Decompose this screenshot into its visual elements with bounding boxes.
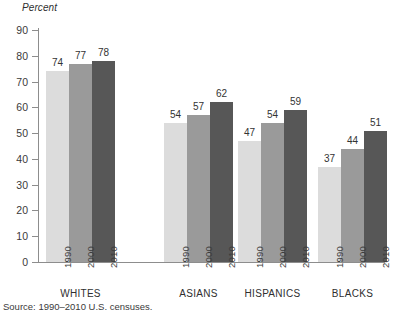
bar — [238, 141, 261, 262]
x-axis-year-label: 2000 — [277, 246, 288, 268]
x-axis-year-label: 1990 — [180, 246, 191, 268]
bar — [341, 149, 364, 262]
x-axis-year-label: 1990 — [334, 246, 345, 268]
bar-value-label: 47 — [238, 128, 261, 138]
x-axis-group-label: WHITES — [16, 288, 145, 299]
bar-value-label: 57 — [187, 102, 210, 112]
bar-value-label: 54 — [261, 110, 284, 120]
bar-value-label: 77 — [69, 51, 92, 61]
x-axis-year-label: 2010 — [108, 246, 119, 268]
source-note: Source: 1990–2010 U.S. censuses. — [3, 301, 152, 312]
x-axis-year-label: 2010 — [226, 246, 237, 268]
x-axis-year-label: 2010 — [380, 246, 391, 268]
bar — [187, 115, 210, 262]
bar — [210, 102, 233, 262]
x-axis-year-label: 1990 — [62, 246, 73, 268]
y-axis-tick-label: 40 — [2, 154, 28, 165]
bar-value-label: 54 — [164, 110, 187, 120]
bar-value-label: 62 — [210, 89, 233, 99]
bar-value-label: 51 — [364, 118, 387, 128]
bar — [261, 123, 284, 262]
bar — [92, 61, 115, 262]
bar — [69, 64, 92, 262]
bar-value-label: 59 — [284, 97, 307, 107]
y-axis-tick — [32, 262, 38, 263]
y-axis-tick-label: 70 — [2, 77, 28, 88]
x-axis-year-label: 2000 — [357, 246, 368, 268]
bar-value-label: 78 — [92, 48, 115, 58]
y-axis-tick-label: 50 — [2, 128, 28, 139]
x-axis-group-label: BLACKS — [288, 288, 394, 299]
y-axis-tick-label: 20 — [2, 205, 28, 216]
bar-value-label: 44 — [341, 136, 364, 146]
bar-value-label: 37 — [318, 154, 341, 164]
plot-area: 747778545762475459374451 — [38, 30, 385, 262]
y-axis-tick-label: 10 — [2, 231, 28, 242]
y-axis-tick-label: 80 — [2, 51, 28, 62]
y-axis-title: Percent — [22, 2, 57, 13]
bar — [46, 71, 69, 262]
bar — [284, 110, 307, 262]
x-axis-year-label: 2010 — [300, 246, 311, 268]
bar — [364, 131, 387, 262]
x-axis-year-label: 1990 — [254, 246, 265, 268]
y-axis-tick-label: 90 — [2, 25, 28, 36]
bar-value-label: 74 — [46, 58, 69, 68]
y-axis-tick-label: 60 — [2, 102, 28, 113]
y-axis-tick-label: 30 — [2, 180, 28, 191]
bar — [164, 123, 187, 262]
y-axis-tick-label: 0 — [2, 257, 28, 268]
x-axis-year-label: 2000 — [203, 246, 214, 268]
x-axis-year-label: 2000 — [85, 246, 96, 268]
